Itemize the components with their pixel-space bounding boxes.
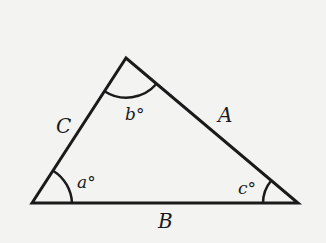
triangle-outline xyxy=(32,58,298,203)
side-label-c: C xyxy=(56,114,71,138)
angle-arc-a xyxy=(54,171,73,203)
angle-label-a: a° xyxy=(77,172,96,192)
triangle-diagram: C A B a° b° c° xyxy=(0,0,326,243)
angle-arc-c xyxy=(263,181,271,204)
angle-label-c: c° xyxy=(238,178,256,198)
angle-arc-b xyxy=(105,84,157,98)
side-label-b: B xyxy=(157,209,173,233)
side-label-a: A xyxy=(216,103,232,127)
triangle-canvas: C A B a° b° c° xyxy=(0,0,326,243)
angle-label-b: b° xyxy=(125,104,144,124)
